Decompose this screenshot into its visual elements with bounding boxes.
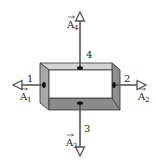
label-face-4: 4	[86, 49, 92, 60]
vector-label-A3: A 3	[65, 134, 77, 150]
dot-face-3	[77, 101, 83, 105]
label-face-2: 2	[124, 73, 130, 84]
vector-label-A4: A 4	[66, 16, 79, 32]
area-vectors-diagram: 4 1 2 3 A 4 A 1 A 2 A 3	[0, 0, 156, 166]
dot-face-4	[77, 66, 83, 70]
svg-text:4: 4	[74, 24, 79, 32]
dot-face-2	[112, 82, 116, 88]
vector-label-A1: A 1	[19, 88, 31, 104]
svg-text:1: 1	[27, 96, 31, 104]
svg-text:2: 2	[145, 96, 149, 104]
label-face-3: 3	[84, 123, 90, 134]
box-opening	[49, 70, 112, 98]
dot-face-1	[42, 82, 46, 88]
vector-label-A2: A 2	[137, 88, 149, 104]
box-bottom-face	[49, 98, 120, 110]
label-face-1: 1	[27, 73, 33, 84]
svg-text:3: 3	[73, 142, 77, 150]
